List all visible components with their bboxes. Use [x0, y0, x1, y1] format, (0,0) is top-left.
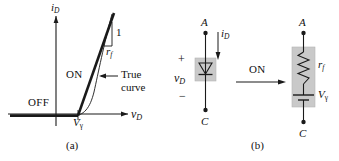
diode-circuit: [195, 31, 220, 112]
true-curve-annotation-line2: curve: [121, 82, 145, 93]
y-axis: [54, 16, 59, 126]
anode-terminal-dot: [203, 31, 207, 35]
current-arrow: [216, 32, 221, 60]
equivalent-anode-terminal-dot: [301, 31, 305, 35]
off-region-label: OFF: [28, 97, 49, 108]
polarity-plus-label: +: [178, 53, 185, 65]
source-label: Vγ: [318, 89, 328, 102]
equivalent-cathode-label: C: [299, 128, 306, 139]
transition-arrow: [236, 79, 286, 84]
diode-piecewise-linear-figure: iD vD OFF ON True curve 1 rf Vγ (a): [0, 0, 339, 161]
true-curve-leader-arrow: [99, 74, 118, 79]
y-axis-label: iD: [51, 2, 59, 15]
on-region-label: ON: [66, 69, 83, 80]
diode-voltage-label: vD: [174, 72, 185, 86]
polarity-minus-label: −: [179, 90, 186, 102]
true-curve-annotation-line1: True: [121, 69, 141, 80]
diode-cathode-label: C: [201, 116, 208, 127]
resistor-label: rf: [318, 59, 324, 72]
slope-run-label: rf: [106, 46, 112, 59]
equivalent-cathode-terminal-dot: [301, 120, 305, 124]
equivalent-shading-box: [292, 47, 315, 107]
panel-a-caption: (a): [66, 140, 78, 151]
cathode-terminal-dot: [203, 108, 207, 112]
slope-rise-label: 1: [116, 27, 122, 38]
diode-current-label: iD: [221, 28, 229, 41]
threshold-voltage-label: Vγ: [73, 117, 83, 130]
x-axis-label: vD: [131, 108, 142, 122]
panel-b-circuits: [170, 0, 339, 161]
transition-arrow-label: ON: [249, 64, 266, 75]
true-curve: [72, 14, 112, 116]
panel-b-caption: (b): [251, 140, 264, 151]
equivalent-circuit: [292, 31, 315, 124]
equivalent-anode-label: A: [299, 17, 306, 28]
diode-anode-label: A: [201, 17, 208, 28]
